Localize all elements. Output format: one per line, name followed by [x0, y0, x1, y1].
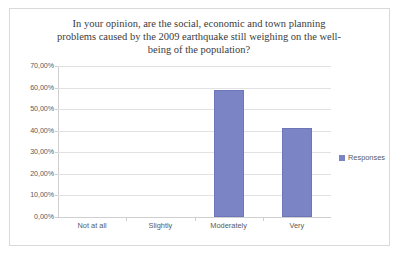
y-axis-tick-mark	[55, 217, 58, 218]
x-axis-tick-label: Moderately	[195, 221, 263, 230]
chart-title-line-2: problems caused by the 2009 earthquake s…	[34, 30, 364, 43]
chart-frame: In your opinion, are the social, economi…	[9, 8, 390, 246]
x-axis-tick-mark	[126, 218, 127, 221]
y-axis-tick-label: 0,00%	[12, 212, 54, 221]
bar	[214, 90, 244, 217]
x-axis-tick-mark	[263, 218, 264, 221]
y-axis-tick-label: 10,00%	[12, 190, 54, 199]
gridline	[58, 88, 331, 89]
bar	[282, 128, 312, 217]
y-axis-tick-mark	[55, 152, 58, 153]
gridline	[58, 109, 331, 110]
chart-legend: Responses	[339, 153, 385, 162]
y-axis-tick-mark	[55, 195, 58, 196]
plot-area	[58, 66, 331, 217]
legend-swatch-icon	[339, 155, 345, 161]
x-axis-tick-label: Very	[263, 221, 331, 230]
y-axis-tick-label: 70,00%	[12, 61, 54, 70]
x-axis-labels: Not at allSlightlyModeratelyVery	[58, 221, 331, 237]
legend-label: Responses	[348, 153, 385, 162]
y-axis-tick-mark	[55, 174, 58, 175]
y-axis-tick-label: 50,00%	[12, 104, 54, 113]
y-axis-tick-mark	[55, 88, 58, 89]
y-axis-labels: 0,00%10,00%20,00%30,00%40,00%50,00%60,00…	[10, 66, 54, 217]
x-axis-tick-label: Slightly	[126, 221, 194, 230]
chart-title-line-3: being of the population?	[34, 43, 364, 56]
y-axis-tick-mark	[55, 66, 58, 67]
chart-title: In your opinion, are the social, economi…	[34, 17, 364, 57]
y-axis-tick-mark	[55, 109, 58, 110]
y-axis-tick-label: 40,00%	[12, 126, 54, 135]
chart-title-line-1: In your opinion, are the social, economi…	[34, 17, 364, 30]
gridline	[58, 66, 331, 67]
y-axis-tick-mark	[55, 131, 58, 132]
y-axis-tick-label: 60,00%	[12, 83, 54, 92]
y-axis-tick-label: 30,00%	[12, 147, 54, 156]
x-axis-tick-label: Not at all	[58, 221, 126, 230]
x-axis-tick-mark	[195, 218, 196, 221]
y-axis-tick-label: 20,00%	[12, 169, 54, 178]
